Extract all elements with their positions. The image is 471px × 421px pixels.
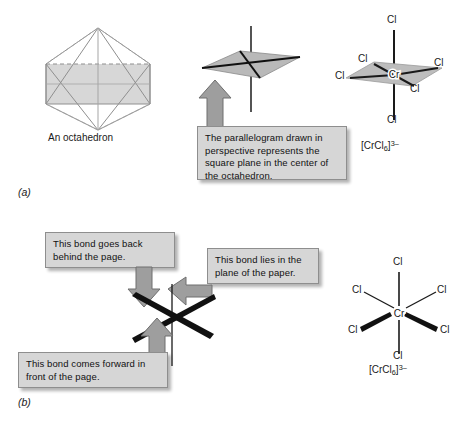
octahedron-hidden-edge [98,104,150,130]
panel-letter-b: (b) [18,396,31,408]
plain-bond-upper-right [406,292,436,308]
octahedron-drawing [28,22,168,134]
ligand-label-bottom: Cl [393,350,402,361]
octahedron-hidden-edge [98,28,150,64]
crcl6-formula-b: [CrCl6]3– [369,363,407,377]
center-atom-label: Cr [394,308,405,319]
ligand-label-lower-right: Cl [440,324,449,335]
ligand-label-bottom: Cl [387,114,396,125]
callout-bond-forward: This bond comes forward in front of the … [18,352,168,388]
ligand-label-upper-right: Cl [434,57,443,68]
callout-arrow-parallelogram [197,78,241,130]
ligand-label-upper-left: Cl [358,53,367,64]
ligand-label-upper-left: Cl [352,284,361,295]
octahedron-caption: An octahedron [48,132,113,143]
panel-letter-a: (a) [18,186,31,198]
arrow-shape [199,80,231,130]
callout-parallelogram: The parallelogram drawn in perspective r… [197,126,347,180]
ligand-label-upper-right: Cl [437,284,446,295]
ligand-label-top: Cl [393,256,402,267]
ligand-label-lower-right: Cl [410,83,419,94]
crcl6-formula-a: [CrCl6]3– [361,139,399,153]
ligand-label-lower-left: Cl [348,324,357,335]
octahedron-hidden-edge [46,104,98,130]
wedge-bond-lower-right [404,312,438,332]
ligand-label-top: Cl [387,14,396,25]
callout-bond-back: This bond goes back behind the page. [45,232,175,268]
ligand-label-lower-left: Cl [335,70,344,81]
plain-bond-upper-left [364,292,394,308]
center-atom-label: Cr [389,69,400,80]
wedge-bond-lower-left [360,312,392,332]
callout-bond-plane: This bond lies in the plane of the paper… [207,248,319,284]
